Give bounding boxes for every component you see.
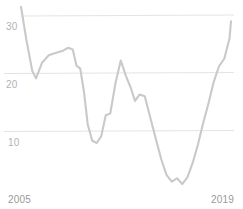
y-tick-label-20: 20 <box>6 79 18 90</box>
gridline-10 <box>4 131 234 132</box>
x-tick-label-end: 2019 <box>211 194 234 205</box>
chart-plot-area <box>0 0 243 209</box>
gridline-30 <box>21 15 234 16</box>
y-tick-label-10: 10 <box>8 137 20 148</box>
data-series-line <box>21 7 231 184</box>
line-chart: 30 20 10 2005 2019 <box>0 0 243 209</box>
x-tick-label-start: 2005 <box>8 194 31 205</box>
y-tick-label-30: 30 <box>6 21 18 32</box>
